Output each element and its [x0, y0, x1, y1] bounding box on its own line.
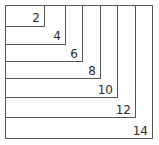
rectangle-label-6: 6: [70, 47, 78, 61]
rectangle-label-10: 10: [98, 83, 113, 97]
rectangle-14: [6, 6, 153, 139]
rectangle-label-14: 14: [133, 124, 148, 138]
rectangle-label-2: 2: [32, 11, 40, 25]
rectangle-layer: [6, 6, 153, 139]
label-layer: 2468101214: [32, 11, 148, 138]
rectangle-label-12: 12: [116, 103, 131, 117]
diagram-canvas: 2468101214: [0, 0, 159, 145]
rectangle-label-4: 4: [53, 29, 61, 43]
nested-rectangles-diagram: 2468101214: [0, 0, 159, 145]
rectangle-label-8: 8: [88, 64, 96, 78]
